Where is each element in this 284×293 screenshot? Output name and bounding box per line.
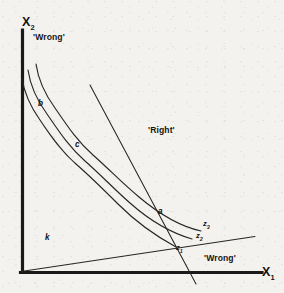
x-axis-label-main: X	[262, 265, 271, 279]
isoquant-label-z3: z3	[203, 220, 210, 230]
isoquant-curve-z2	[28, 70, 192, 239]
upper-ridge-line	[90, 85, 196, 284]
isoquant-label-z1-sub: 1	[180, 248, 183, 254]
isoquant-curve-z1	[22, 78, 176, 247]
x-axis-label-sub: 1	[271, 273, 275, 282]
point-label-a: a	[158, 208, 163, 216]
isoquant-label-z2-sub: 2	[200, 236, 203, 242]
point-label-b: b	[38, 100, 43, 108]
y-axis-label: X2	[22, 16, 35, 31]
isoquant-plot-canvas	[0, 0, 284, 293]
point-label-k: k	[45, 234, 50, 242]
region-label-wrong-lower: 'Wrong'	[204, 254, 236, 263]
isoquant-figure: X2 X1 'Wrong' 'Right' 'Wrong' b c a k z3…	[0, 0, 284, 293]
isoquant-label-z2: z2	[196, 232, 203, 242]
isoquant-label-z3-sub: 3	[207, 224, 210, 230]
x-axis-label: X1	[262, 266, 275, 281]
isoquant-label-z1: z1	[176, 244, 183, 254]
y-axis-label-main: X	[22, 15, 31, 29]
point-label-c: c	[75, 141, 80, 149]
region-label-right: 'Right'	[148, 126, 175, 135]
region-label-wrong-upper: 'Wrong'	[33, 33, 65, 42]
y-axis-label-sub: 2	[31, 23, 35, 32]
